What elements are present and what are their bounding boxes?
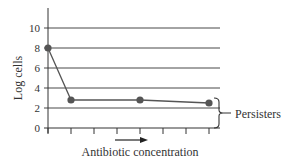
x-axis-title: Antibiotic concentration (82, 145, 199, 159)
gridlines (44, 28, 220, 108)
data-point (136, 96, 143, 103)
y-tick-label: 4 (35, 82, 41, 94)
persisters-label: Persisters (235, 107, 281, 121)
y-tick-label: 8 (35, 42, 41, 54)
data-point (205, 99, 212, 106)
data-series (44, 44, 212, 106)
chart: 0246810 Log cells Antibiotic concentrati… (0, 0, 284, 163)
y-tick-label: 6 (35, 62, 41, 74)
x-arrow-icon (115, 137, 148, 143)
data-line (48, 48, 209, 103)
data-point (44, 44, 51, 51)
y-tick-label: 10 (29, 22, 41, 34)
y-tick-labels: 0246810 (29, 22, 41, 134)
axes (44, 8, 220, 134)
y-tick-label: 2 (35, 102, 41, 114)
data-point (67, 96, 74, 103)
brace-icon (214, 98, 223, 128)
persisters-brace (214, 98, 231, 128)
y-axis-title: Log cells (11, 56, 25, 101)
y-tick-label: 0 (35, 122, 41, 134)
